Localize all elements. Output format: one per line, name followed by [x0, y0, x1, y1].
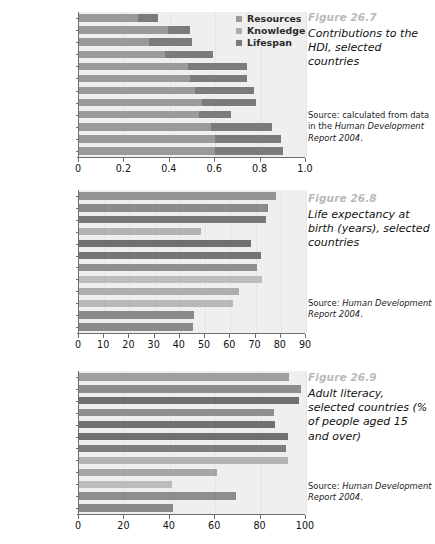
bar — [79, 75, 247, 82]
source-prefix: Source: — [308, 481, 342, 491]
bar-fill — [79, 228, 201, 235]
bar-fill — [79, 216, 266, 223]
y-tick — [76, 115, 79, 116]
x-tick-label: 60 — [194, 520, 234, 531]
x-tick — [78, 515, 79, 519]
y-tick — [76, 78, 79, 79]
x-tick — [204, 334, 205, 338]
bar — [79, 373, 289, 380]
y-tick — [76, 256, 79, 257]
y-tick — [76, 244, 79, 245]
bar — [79, 433, 288, 440]
x-axis-line — [77, 157, 305, 158]
x-tick — [169, 158, 170, 162]
y-tick — [76, 232, 79, 233]
bar — [79, 492, 236, 499]
x-tick — [179, 334, 180, 338]
x-tick — [154, 334, 155, 338]
bar-fill — [79, 385, 301, 392]
y-tick — [76, 413, 79, 414]
figure-title: Life expectancy at birth (years), select… — [308, 208, 430, 251]
bar-fill — [79, 373, 289, 380]
bar-segment-resources — [79, 99, 202, 106]
x-tick-label: 0.6 — [194, 163, 234, 174]
x-tick — [229, 334, 230, 338]
caption-26-8: Figure 26.8 Life expectancy at birth (ye… — [308, 180, 435, 361]
bar — [79, 504, 173, 511]
x-tick — [103, 334, 104, 338]
gridline — [306, 371, 307, 514]
bar — [79, 421, 275, 428]
bar-fill — [79, 192, 276, 199]
y-tick — [76, 401, 79, 402]
x-tick — [78, 334, 79, 338]
gridline — [281, 190, 282, 333]
y-tick — [76, 279, 79, 280]
legend-label: Resources — [247, 14, 301, 23]
bar-segment-lifespan — [202, 99, 256, 106]
bar-segment-resources — [79, 26, 168, 33]
bar — [79, 276, 262, 283]
y-tick — [76, 448, 79, 449]
bar — [79, 457, 288, 464]
bar — [79, 192, 276, 199]
y-tick — [76, 460, 79, 461]
bar-segment-lifespan — [165, 51, 213, 58]
bar-fill — [79, 276, 262, 283]
legend-item: Resources — [236, 14, 305, 23]
bar-segment-lifespan — [215, 135, 281, 142]
chart-hdi-contributions: EthiopiaUgandaBangladeshIndiaSri LankaCh… — [0, 0, 300, 180]
y-tick — [76, 220, 79, 221]
bar-fill — [79, 409, 274, 416]
bar-fill — [79, 323, 193, 330]
x-axis-line — [77, 333, 305, 334]
bar — [79, 409, 274, 416]
y-tick — [76, 437, 79, 438]
figure-source: Source: Human Development Report 2004. — [308, 481, 435, 504]
bar-fill — [79, 204, 268, 211]
bar — [79, 216, 266, 223]
bar-segment-resources — [79, 51, 165, 58]
x-tick-label: 0.4 — [149, 163, 189, 174]
y-tick — [76, 54, 79, 55]
bar — [79, 14, 158, 21]
bar — [79, 481, 172, 488]
bar-fill — [79, 311, 194, 318]
bar-fill — [79, 421, 275, 428]
figure-26-8: SingaporeSouth KoreaArgentinaSouth Afric… — [0, 180, 435, 361]
y-tick — [76, 508, 79, 509]
bar-segment-lifespan — [188, 63, 247, 70]
chart-adult-literacy: SingaporeSouth KoreaArgentinaSouth Afric… — [0, 361, 300, 544]
legend-item: Lifespan — [236, 38, 305, 47]
x-tick — [305, 334, 306, 338]
figure-source: Source: Human Development Report 2004. — [308, 298, 435, 321]
y-tick — [76, 327, 79, 328]
bar-fill — [79, 481, 172, 488]
caption-26-9: Figure 26.9 Adult literacy, selected cou… — [308, 361, 435, 544]
y-tick — [76, 18, 79, 19]
bar — [79, 63, 247, 70]
y-tick — [76, 484, 79, 485]
legend: ResourcesKnowledgeLifespan — [236, 14, 305, 50]
bar-fill — [79, 264, 257, 271]
x-tick — [123, 515, 124, 519]
x-tick — [255, 334, 256, 338]
bar — [79, 38, 192, 45]
bar — [79, 288, 239, 295]
figure-title: Adult literacy, selected countries (% of… — [308, 387, 432, 444]
y-tick — [76, 267, 79, 268]
bar-segment-lifespan — [195, 87, 254, 94]
bar-segment-lifespan — [199, 111, 231, 118]
x-tick-label: 80 — [240, 520, 280, 531]
figure-number: Figure 26.9 — [308, 371, 377, 383]
bar-fill — [79, 252, 261, 259]
legend-swatch-icon — [236, 28, 242, 34]
x-tick — [214, 515, 215, 519]
bar — [79, 51, 213, 58]
bar-fill — [79, 469, 217, 476]
bar — [79, 26, 190, 33]
x-tick — [260, 515, 261, 519]
bar-segment-resources — [79, 14, 138, 21]
figure-source: Source: calculated from data in the Huma… — [308, 110, 435, 144]
bar — [79, 135, 281, 142]
